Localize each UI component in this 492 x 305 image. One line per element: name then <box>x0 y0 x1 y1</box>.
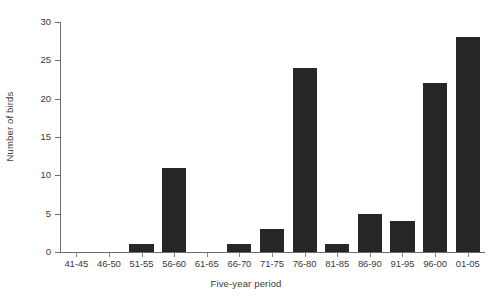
x-axis-tick <box>305 253 306 257</box>
y-axis-title: Number of birds <box>0 0 20 252</box>
plot-area <box>60 22 484 252</box>
x-axis-tick-label: 96-00 <box>419 259 452 269</box>
bar <box>293 68 317 252</box>
y-axis-tick-label: 25 <box>22 55 51 65</box>
x-axis-tick-label: 86-90 <box>354 259 387 269</box>
x-axis-tick <box>337 253 338 257</box>
y-axis-tick-label: 30 <box>22 17 51 27</box>
x-axis-tick <box>435 253 436 257</box>
y-axis-tick-label-text: 15 <box>22 132 51 142</box>
x-axis-tick-label: 46-50 <box>93 259 126 269</box>
y-axis-title-text: Number of birds <box>5 91 16 161</box>
y-axis-tick-label-text: 0 <box>22 247 51 257</box>
x-axis-tick <box>109 253 110 257</box>
x-axis-tick-label: 76-80 <box>288 259 321 269</box>
x-axis-tick <box>402 253 403 257</box>
x-axis-tick-label: 61-65 <box>190 259 223 269</box>
bar <box>456 37 480 252</box>
x-axis-tick-label: 56-60 <box>158 259 191 269</box>
y-axis-tick-label-text: 5 <box>22 209 51 219</box>
y-axis-tick-label: 20 <box>22 94 51 104</box>
x-axis-title: Five-year period <box>0 278 492 289</box>
bar <box>358 214 382 252</box>
y-axis-tick-label-text: 20 <box>22 94 51 104</box>
bar <box>129 244 153 252</box>
x-axis-tick-label: 66-70 <box>223 259 256 269</box>
y-axis-tick-label: 5 <box>22 209 51 219</box>
y-axis-tick <box>55 252 60 253</box>
x-axis-tick <box>272 253 273 257</box>
y-axis-tick-label-text: 25 <box>22 55 51 65</box>
x-axis-tick-label: 81-85 <box>321 259 354 269</box>
bar <box>423 83 447 252</box>
y-axis-tick-label: 15 <box>22 132 51 142</box>
bar <box>390 221 414 252</box>
x-axis-tick <box>174 253 175 257</box>
y-axis-tick-label-text: 30 <box>22 17 51 27</box>
x-axis-tick-label: 71-75 <box>256 259 289 269</box>
bar <box>162 168 186 252</box>
x-axis-tick <box>142 253 143 257</box>
x-axis-tick-label: 51-55 <box>125 259 158 269</box>
y-axis-tick-label: 10 <box>22 170 51 180</box>
bar <box>227 244 251 252</box>
x-axis-tick <box>370 253 371 257</box>
bar-chart-figure: Number of birds 051015202530 41-4546-505… <box>0 0 492 305</box>
x-axis-tick <box>207 253 208 257</box>
x-axis-tick-label: 91-95 <box>386 259 419 269</box>
y-axis-tick-label: 0 <box>22 247 51 257</box>
x-axis-tick <box>468 253 469 257</box>
y-axis-tick-label-text: 10 <box>22 170 51 180</box>
bar <box>325 244 349 252</box>
bar <box>260 229 284 252</box>
x-axis-tick <box>239 253 240 257</box>
x-axis-tick-label: 01-05 <box>451 259 484 269</box>
x-axis-tick <box>76 253 77 257</box>
x-axis-tick-label: 41-45 <box>60 259 93 269</box>
